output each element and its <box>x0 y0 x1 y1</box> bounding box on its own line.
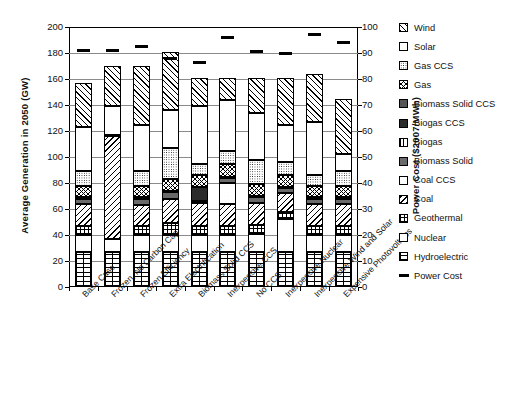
y-tick-left <box>65 53 69 54</box>
bar-segment-gas <box>306 186 323 198</box>
legend-item: Biogas CCS <box>399 113 514 132</box>
bar-segment-gas <box>162 179 179 191</box>
bar-segment-solar <box>162 110 179 148</box>
legend-item: Coal CCS <box>399 171 514 190</box>
legend-label: Wind <box>414 23 435 33</box>
y-tick-label-left: 120 <box>29 125 63 136</box>
bar-segment-wind <box>104 66 121 106</box>
bar-segment-coal <box>248 203 265 225</box>
stacked-bar <box>162 52 179 287</box>
legend-swatch <box>399 214 408 223</box>
legend-label: Biogas <box>414 137 442 147</box>
bar-segment-gas-ccs <box>133 171 150 185</box>
legend-swatch <box>399 80 408 89</box>
legend-line-swatch <box>399 274 409 277</box>
legend-label: Gas CCS <box>414 61 453 71</box>
bar-segment-geothermal <box>248 225 265 234</box>
legend-item: Power Cost <box>399 266 514 285</box>
bar-segment-coal <box>191 203 208 226</box>
legend-item: Solar <box>399 37 514 56</box>
chart-legend: WindSolarGas CCSGasBiomass Solid CCSBiog… <box>399 18 514 285</box>
legend-swatch <box>399 157 408 166</box>
bar-segment-solar <box>335 154 352 171</box>
bar-segment-coal <box>133 205 150 226</box>
power-cost-marker <box>250 50 263 53</box>
bar-segment-biomass-solid <box>162 192 179 199</box>
bar-segment-coal <box>306 204 323 226</box>
legend-label: Geothermal <box>414 213 463 223</box>
y-tick-left <box>65 105 69 106</box>
bar-segment-wind <box>335 99 352 155</box>
bar-segment-gas-ccs <box>75 171 92 185</box>
bar-segment-biomass-solid <box>75 199 92 204</box>
y-tick-label-right: 80 <box>362 73 396 84</box>
y-tick-left <box>65 79 69 80</box>
bar-segment-solar <box>219 100 236 151</box>
legend-label: Gas <box>414 80 431 90</box>
y-tick-label-left: 200 <box>29 21 63 32</box>
bar-segment-gas-ccs <box>306 175 323 185</box>
stacked-bar <box>104 66 121 287</box>
y-tick-label-left: 100 <box>29 151 63 162</box>
bar-segment-gas <box>219 164 236 177</box>
bar-segment-geothermal <box>306 226 323 235</box>
y-tick-label-left: 20 <box>29 255 63 266</box>
power-cost-marker <box>164 57 177 60</box>
bar-segment-geothermal <box>219 226 236 235</box>
y-tick-label-left: 140 <box>29 99 63 110</box>
legend-item: Wind <box>399 18 514 37</box>
legend-swatch <box>399 195 408 204</box>
legend-swatch <box>399 119 408 128</box>
bar-segment-geothermal <box>191 226 208 235</box>
legend-label: Coal CCS <box>414 175 455 185</box>
bar-segment-biomass-solid <box>277 188 294 193</box>
bar-segment-geothermal <box>75 226 92 235</box>
power-cost-marker <box>77 49 90 52</box>
legend-swatch <box>399 61 408 70</box>
y-tick-label-right: 0 <box>362 281 396 292</box>
y-tick-label-left: 80 <box>29 177 63 188</box>
y-tick-left <box>65 131 69 132</box>
power-cost-marker <box>308 33 321 36</box>
legend-swatch <box>399 42 408 51</box>
legend-label: Coal <box>414 194 433 204</box>
legend-swatch <box>399 99 408 108</box>
y-tick-label-left: 160 <box>29 73 63 84</box>
bar-segment-gas-ccs <box>219 151 236 164</box>
bar-segment-biomass-solid <box>306 199 323 204</box>
bar-segment-geothermal <box>133 226 150 235</box>
x-tick <box>69 287 70 291</box>
legend-label: Biomass Solid CCS <box>414 99 495 109</box>
y-tick-left <box>65 157 69 158</box>
bar-segment-geothermal <box>335 226 352 235</box>
stacked-bar <box>277 78 294 287</box>
power-cost-marker <box>106 49 119 52</box>
legend-item: Geothermal <box>399 209 514 228</box>
power-cost-marker <box>193 61 206 64</box>
y-tick-label-right: 90 <box>362 47 396 58</box>
legend-item: Biogas <box>399 133 514 152</box>
legend-swatch <box>399 23 408 32</box>
bar-segment-biomass-solid <box>248 197 265 202</box>
legend-item: Biomass Solid <box>399 152 514 171</box>
bar-segment-gas <box>335 186 352 198</box>
bar-segment-wind <box>306 74 323 122</box>
legend-label: Biogas CCS <box>414 118 465 128</box>
legend-item: Gas <box>399 75 514 94</box>
y-tick-label-left: 60 <box>29 203 63 214</box>
bar-segment-biomass-solid <box>335 199 352 204</box>
bar-segment-wind <box>248 78 265 113</box>
power-cost-marker <box>337 41 350 44</box>
bar-segment-nuclear <box>75 235 92 252</box>
y-tick-label-right: 50 <box>362 151 396 162</box>
bar-segment-solar <box>277 125 294 163</box>
bar-segment-nuclear <box>277 219 294 252</box>
bar-segment-nuclear <box>104 239 121 252</box>
bar-segment-nuclear <box>133 235 150 252</box>
bar-segment-coal <box>75 204 92 226</box>
legend-item: Coal <box>399 190 514 209</box>
gridline <box>69 53 358 54</box>
legend-swatch <box>399 176 408 185</box>
legend-label: Power Cost <box>414 271 462 281</box>
y-tick-left <box>65 261 69 262</box>
